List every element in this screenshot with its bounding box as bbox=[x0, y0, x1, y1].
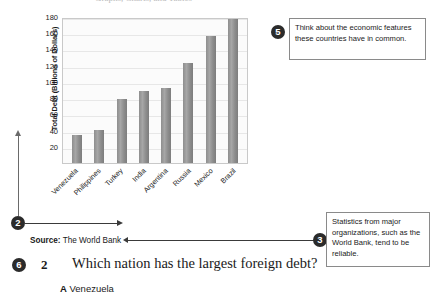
marker-2-horizontal-arrowhead bbox=[117, 220, 123, 226]
y-tick-100: 100 bbox=[38, 79, 58, 87]
answer-choice-a[interactable]: A Venezuela bbox=[60, 283, 114, 294]
bar-philippines bbox=[94, 130, 104, 163]
marker-2-vertical-connector bbox=[18, 136, 19, 216]
source-line: Source: The World Bank bbox=[30, 236, 121, 245]
marker-2-horizontal-connector bbox=[25, 223, 118, 224]
bar-argentina bbox=[161, 88, 171, 163]
x-tick-brazil: Brazil bbox=[219, 167, 237, 185]
y-tick-40: 40 bbox=[38, 128, 58, 136]
source-value: The World Bank bbox=[63, 236, 122, 245]
question-number: 2 bbox=[41, 257, 48, 273]
marker-2-vertical-arrowhead bbox=[15, 130, 21, 136]
marker-3-connector bbox=[127, 240, 314, 241]
x-tick-india: India bbox=[131, 167, 148, 184]
x-tick-mexico: Mexico bbox=[193, 167, 215, 189]
marker-5[interactable]: 5 bbox=[271, 25, 285, 39]
answer-choice-a-text: Venezuela bbox=[70, 283, 114, 294]
question-text: Which nation has the largest foreign deb… bbox=[72, 255, 317, 272]
source-label: Source: bbox=[30, 236, 60, 245]
y-tick-80: 80 bbox=[38, 95, 58, 103]
answer-choice-a-letter: A bbox=[60, 283, 67, 294]
bar-venezuela bbox=[72, 135, 82, 163]
marker-3[interactable]: 3 bbox=[313, 233, 327, 247]
x-axis-tick-labels: VenezuelaPhilippinesTurkeyIndiaArgentina… bbox=[62, 165, 248, 211]
bars-container bbox=[63, 19, 247, 163]
question-row: 6 2 Which nation has the largest foreign… bbox=[12, 254, 342, 278]
bar-turkey bbox=[117, 99, 127, 163]
x-tick-russia: Russia bbox=[171, 167, 192, 188]
x-tick-turkey: Turkey bbox=[104, 167, 125, 188]
y-tick-60: 60 bbox=[38, 112, 58, 120]
bar-russia bbox=[183, 63, 193, 163]
bar-mexico bbox=[206, 36, 216, 163]
page-title-cutoff: Graphs, Charts, and Tables bbox=[95, 0, 275, 3]
marker-2[interactable]: 2 bbox=[11, 216, 25, 230]
bar-india bbox=[139, 91, 149, 163]
y-axis-tick-labels: 18016014012010080604020 bbox=[38, 14, 58, 164]
bar-brazil bbox=[228, 19, 238, 163]
bar-chart: Total Debt (Billions of Dollars) 1801601… bbox=[26, 14, 248, 200]
marker-6[interactable]: 6 bbox=[12, 258, 26, 272]
y-tick-20: 20 bbox=[38, 144, 58, 152]
callout-5: Think about the economic features these … bbox=[289, 18, 426, 60]
y-tick-160: 160 bbox=[38, 30, 58, 38]
plot-area bbox=[62, 18, 248, 164]
y-tick-180: 180 bbox=[38, 14, 58, 22]
y-tick-120: 120 bbox=[38, 63, 58, 71]
y-tick-140: 140 bbox=[38, 47, 58, 55]
